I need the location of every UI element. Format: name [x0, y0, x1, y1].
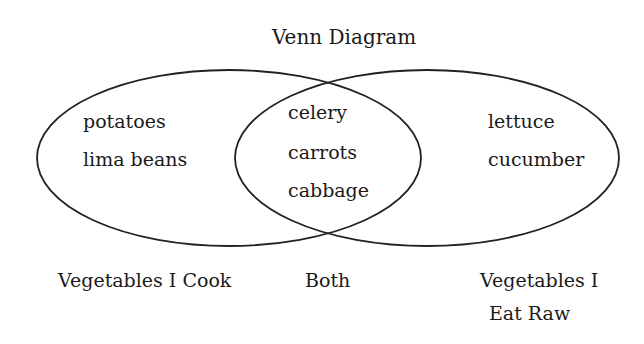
intersection-label: Both: [305, 269, 350, 291]
item-cucumber: cucumber: [488, 148, 585, 170]
item-celery: celery: [288, 101, 347, 123]
set-label-raw-line2: Eat Raw: [489, 302, 571, 324]
set-label-cook: Vegetables I Cook: [57, 269, 232, 291]
item-lettuce: lettuce: [488, 110, 555, 132]
venn-diagram: Venn Diagram potatoes lima beans celery …: [0, 0, 644, 344]
set-label-raw-line1: Vegetables I: [479, 269, 598, 291]
item-potatoes: potatoes: [83, 110, 166, 132]
item-lima-beans: lima beans: [83, 148, 187, 170]
diagram-title: Venn Diagram: [271, 25, 416, 49]
item-cabbage: cabbage: [288, 179, 369, 201]
item-carrots: carrots: [288, 141, 357, 163]
